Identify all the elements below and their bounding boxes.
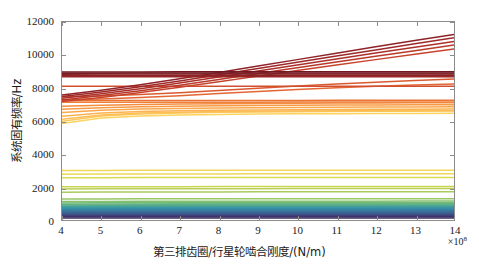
x-tick-mark-top: [101, 22, 102, 26]
y-tick-mark-right: [450, 122, 454, 123]
y-tick-label: 8000: [32, 82, 54, 94]
x-tick-mark: [417, 216, 418, 220]
x-axis-exponent: ×108: [448, 235, 467, 247]
y-tick-mark-right: [450, 89, 454, 90]
x-tick-mark: [62, 216, 63, 220]
x-tick-label: 12: [371, 224, 382, 236]
x-tick-mark-top: [62, 22, 63, 26]
x-tick-mark-top: [417, 22, 418, 26]
x-tick-label: 11: [332, 224, 343, 236]
y-tick-mark: [62, 89, 66, 90]
y-tick-mark: [62, 155, 66, 156]
y-tick-label: 2000: [32, 182, 54, 194]
plot-area: [61, 21, 455, 221]
x-tick-label: 4: [58, 224, 64, 236]
x-tick-mark: [220, 216, 221, 220]
x-tick-label: 6: [137, 224, 143, 236]
x-tick-mark-top: [298, 22, 299, 26]
x-tick-mark: [101, 216, 102, 220]
x-tick-mark-top: [259, 22, 260, 26]
x-tick-label: 10: [292, 224, 303, 236]
y-tick-mark-right: [450, 55, 454, 56]
frequency-curves: [62, 22, 454, 220]
x-axis-exponent-power: 8: [464, 235, 468, 243]
x-tick-mark: [338, 216, 339, 220]
y-axis-title-wrapper: 系统固有频率/Hz: [14, 0, 34, 242]
x-axis-tick-labels: 4567891011121314: [61, 222, 455, 238]
y-axis-title: 系统固有频率/Hz: [8, 79, 24, 164]
x-tick-mark: [298, 216, 299, 220]
x-tick-label: 5: [98, 224, 104, 236]
x-tick-mark-top: [377, 22, 378, 26]
y-tick-label: 6000: [32, 115, 54, 127]
x-tick-label: 8: [216, 224, 222, 236]
y-tick-mark: [62, 55, 66, 56]
x-axis-exponent-base: ×10: [448, 236, 464, 247]
x-tick-mark-top: [180, 22, 181, 26]
y-tick-mark: [62, 122, 66, 123]
y-tick-mark: [62, 189, 66, 190]
y-tick-mark-right: [450, 155, 454, 156]
y-tick-label: 0: [49, 215, 55, 227]
curve-mode-20: [62, 192, 454, 193]
x-tick-mark: [259, 216, 260, 220]
x-axis-title: 第三排齿圈/行星轮啮合刚度/(N/m): [0, 243, 479, 259]
y-tick-label: 4000: [32, 148, 54, 160]
x-tick-mark-top: [220, 22, 221, 26]
x-tick-mark: [377, 216, 378, 220]
x-tick-mark: [180, 216, 181, 220]
x-tick-label: 13: [410, 224, 421, 236]
y-tick-mark-right: [450, 22, 454, 23]
x-tick-label: 7: [176, 224, 182, 236]
x-tick-label: 9: [255, 224, 261, 236]
x-tick-mark: [141, 216, 142, 220]
x-tick-mark-top: [141, 22, 142, 26]
y-tick-mark-right: [450, 189, 454, 190]
figure-canvas: 020004000600080001000012000 456789101112…: [0, 0, 479, 277]
x-tick-mark-top: [338, 22, 339, 26]
